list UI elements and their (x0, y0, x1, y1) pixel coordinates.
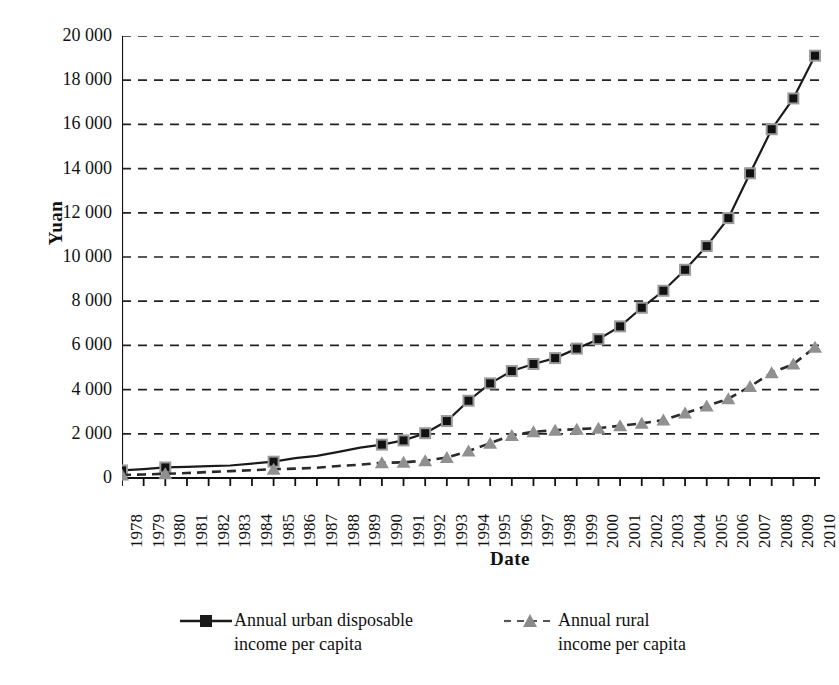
plot-area (122, 36, 815, 478)
x-tick-label: 1997 (539, 514, 556, 548)
y-tick-label: 6 000 (72, 335, 113, 353)
x-tick-label: 1981 (193, 514, 210, 548)
x-tick-label: 1978 (128, 514, 145, 548)
legend-label-rural-line1: Annual rural (558, 610, 649, 630)
x-tick-label: 2002 (648, 514, 665, 548)
x-tick-label: 1998 (561, 514, 578, 548)
x-tick-label: 2005 (713, 514, 730, 548)
legend-item-rural[interactable]: Annual ruralincome per capita (502, 608, 686, 657)
x-tick-label: 1993 (453, 514, 470, 548)
legend-label-urban-line2: income per capita (234, 634, 362, 654)
x-tick-label: 1992 (431, 514, 448, 548)
y-tick-label: 14 000 (63, 159, 113, 177)
y-tick-label: 18 000 (63, 70, 113, 88)
y-tick-label: 2 000 (72, 424, 113, 442)
x-tick-label: 1984 (258, 514, 275, 548)
x-tick-label: 1999 (583, 514, 600, 548)
y-axis-tick-labels: 20 00018 00016 00014 00012 00010 0008 00… (0, 0, 112, 685)
y-tick-label: 10 000 (63, 247, 113, 265)
x-tick-label: 1988 (345, 514, 362, 548)
y-tick-label: 4 000 (72, 380, 113, 398)
x-tick-label: 1996 (518, 514, 535, 548)
legend-swatch-urban-solid-square (178, 610, 234, 632)
x-tick-label: 1994 (475, 514, 492, 548)
legend-label-rural-line2: income per capita (558, 634, 686, 654)
x-tick-label: 1990 (388, 514, 405, 548)
legend-item-urban[interactable]: Annual urban disposableincome per capita (178, 608, 413, 657)
x-tick-label: 2006 (734, 514, 751, 548)
x-tick-label: 1991 (410, 514, 427, 548)
x-tick-label: 1986 (301, 514, 318, 548)
x-tick-label: 1982 (215, 514, 232, 548)
legend-label-rural: Annual ruralincome per capita (558, 608, 686, 657)
x-tick-label: 2010 (821, 514, 838, 548)
y-tick-label: 8 000 (72, 291, 113, 309)
legend-label-urban: Annual urban disposableincome per capita (234, 608, 413, 657)
x-tick-label: 2003 (669, 514, 686, 548)
y-tick-label: 16 000 (63, 114, 113, 132)
legend-swatch-rural-dashed-triangle (502, 610, 558, 632)
x-tick-label: 1989 (366, 514, 383, 548)
y-tick-label: 0 (103, 468, 112, 486)
x-tick-label: 1995 (496, 514, 513, 548)
x-tick-label: 1983 (236, 514, 253, 548)
x-tick-label: 2009 (799, 514, 816, 548)
x-tick-label: 1987 (323, 514, 340, 548)
y-tick-label: 12 000 (63, 203, 113, 221)
x-tick-label: 2008 (778, 514, 795, 548)
chart-legend: Annual urban disposableincome per capita… (150, 608, 810, 678)
x-tick-label: 1979 (150, 514, 167, 548)
x-tick-label: 2007 (756, 514, 773, 548)
legend-label-urban-line1: Annual urban disposable (234, 610, 413, 630)
x-tick-label: 2004 (691, 514, 708, 548)
chart-canvas (122, 36, 822, 486)
x-tick-label: 1980 (171, 514, 188, 548)
x-axis-tick-labels: 1978197919801981198219831984198519861987… (122, 486, 822, 556)
x-tick-label: 2000 (604, 514, 621, 548)
x-tick-label: 1985 (280, 514, 297, 548)
x-tick-label: 2001 (626, 514, 643, 548)
y-tick-label: 20 000 (63, 26, 113, 44)
